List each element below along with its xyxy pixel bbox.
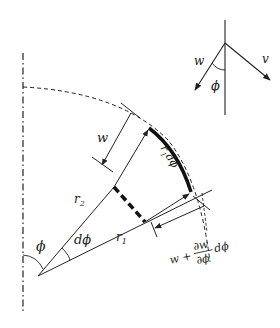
svg-text:dϕ: dϕ <box>213 239 230 255</box>
dphi-label: dϕ <box>74 232 91 247</box>
dphi-angle-arc <box>62 248 70 261</box>
inset-phi-label: ϕ <box>211 78 220 93</box>
svg-text:w +: w + <box>168 249 192 266</box>
shell-element-diagram: w r1dϕ r2 r1 ϕ dϕ w + ∂w ∂ϕ dϕ w v ϕ <box>0 0 280 328</box>
phi-label: ϕ <box>36 238 46 254</box>
inset-v-label: v <box>262 52 269 66</box>
w-bottom-tick-inner <box>151 222 157 237</box>
w-plus-derivative-label: w + ∂w ∂ϕ dϕ <box>167 233 232 272</box>
r2-label: r2 <box>74 192 85 208</box>
arrow-to-arc-top <box>114 130 148 187</box>
w-bottom-arrow <box>155 206 204 228</box>
w-top-label: w <box>97 130 108 145</box>
arrow-to-arc-bottom <box>145 194 189 222</box>
w-bottom-tick-outer <box>193 196 210 210</box>
svg-text:r1dϕ: r1dϕ <box>156 143 182 172</box>
arc-length-label: r1dϕ <box>156 143 182 172</box>
w-top-tick-outer <box>121 103 140 118</box>
inset-w-label: w <box>194 54 205 68</box>
original-element-dashed <box>114 187 145 222</box>
inset-phi-arc <box>212 63 225 70</box>
phi-angle-arc <box>23 255 43 269</box>
displacement-inset: w v ϕ <box>194 20 270 115</box>
